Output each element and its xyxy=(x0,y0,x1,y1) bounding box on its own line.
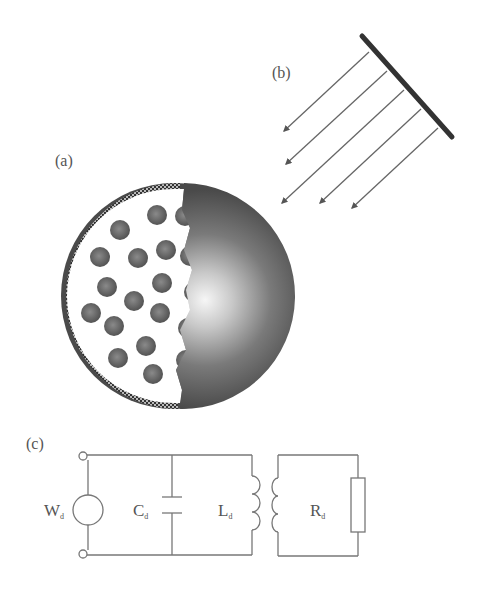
capacitor-label: Cd xyxy=(133,501,148,521)
particle xyxy=(152,273,172,293)
panel-a-label: (a) xyxy=(55,152,73,170)
panel-b-label: (b) xyxy=(272,64,291,82)
particle xyxy=(147,205,167,225)
incident-wave-group xyxy=(282,36,452,208)
particle xyxy=(81,303,101,323)
incident-ray-arrows xyxy=(282,52,438,208)
ray-arrow xyxy=(352,128,438,208)
ray-arrow xyxy=(286,71,387,164)
particle xyxy=(97,277,117,297)
sphere-cut-edge xyxy=(176,183,295,409)
ray-arrow xyxy=(320,109,421,203)
resistor-symbol-text: R xyxy=(310,501,322,520)
particle xyxy=(136,336,156,356)
particle xyxy=(156,240,176,260)
source-symbol xyxy=(73,495,103,525)
inductor-subscript: d xyxy=(228,512,232,521)
capacitor-symbol-text: C xyxy=(133,501,144,520)
inductor-coil-primary xyxy=(252,476,260,530)
terminal-bottom xyxy=(79,550,87,558)
particle xyxy=(128,248,148,268)
source-label: Wd xyxy=(44,501,64,521)
ray-arrow xyxy=(284,52,369,131)
sphere-group xyxy=(61,183,295,409)
inductor-label: Ld xyxy=(218,501,232,521)
source-symbol-text: W xyxy=(44,501,61,520)
terminal-top xyxy=(79,452,87,460)
capacitor-subscript: d xyxy=(144,512,148,521)
ray-arrow xyxy=(282,90,404,203)
resistor-subscript: d xyxy=(321,512,325,521)
particle xyxy=(124,291,144,311)
particle xyxy=(110,220,130,240)
particle xyxy=(150,303,170,323)
diagram-figure: (a) (b) (c) xyxy=(0,0,489,592)
particle xyxy=(104,316,124,336)
inductor-coil-secondary xyxy=(272,478,278,532)
particle xyxy=(90,247,110,267)
particle xyxy=(108,348,128,368)
panel-c-label: (c) xyxy=(26,435,44,453)
inductor-symbol-text: L xyxy=(218,501,228,520)
resistor-label: Rd xyxy=(310,501,325,521)
particle xyxy=(143,364,163,384)
resistor-symbol xyxy=(351,478,365,532)
source-subscript: d xyxy=(60,512,64,521)
